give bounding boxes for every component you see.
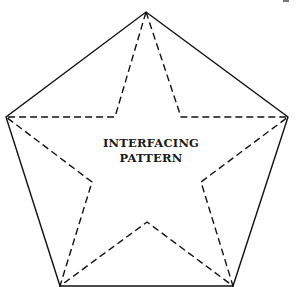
pattern-label-line-1: INTERFACING	[0, 136, 302, 150]
corner-mark	[283, 0, 289, 2]
pattern-label-line-2: PATTERN	[0, 151, 302, 165]
